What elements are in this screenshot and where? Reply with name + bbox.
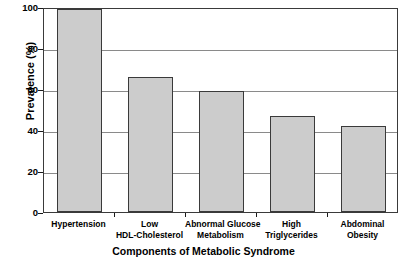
x-axis-category-label: AbdominalObesity <box>327 219 398 240</box>
y-axis-tick-mark <box>38 213 43 214</box>
y-axis-tick-label: 80 <box>12 44 38 54</box>
y-axis-tick-mark <box>38 131 43 132</box>
x-axis-category-label: Abnormal GlucoseMetabolism <box>185 219 256 240</box>
x-axis-category-label: LowHDL-Cholesterol <box>114 219 185 240</box>
y-axis-tick-mark <box>38 49 43 50</box>
x-axis-category-label-line: Hypertension <box>43 219 114 230</box>
x-axis-tick-mark <box>185 213 186 217</box>
bar <box>341 126 386 212</box>
bar <box>270 116 315 212</box>
x-axis-category-label-line: Obesity <box>327 230 398 241</box>
x-axis-category-label: Hypertension <box>43 219 114 230</box>
x-axis-category-label-line: Low <box>114 219 185 230</box>
y-axis-tick-label: 40 <box>12 126 38 136</box>
bar <box>199 91 244 212</box>
bar-series <box>44 9 397 212</box>
y-axis-tick-mark <box>38 8 43 9</box>
x-axis-category-label-line: Abnormal Glucose <box>185 219 256 230</box>
x-axis-category-label-line: Triglycerides <box>256 230 327 241</box>
x-axis-category-label-line: HDL-Cholesterol <box>114 230 185 241</box>
bar <box>57 9 102 212</box>
x-axis-title: Components of Metabolic Syndrome <box>0 245 407 257</box>
y-axis-tick-labels: 020406080100 <box>10 0 38 262</box>
y-axis-tick-label: 100 <box>12 3 38 13</box>
y-axis-tick-label: 60 <box>12 85 38 95</box>
x-axis-category-label-line: Abdominal <box>327 219 398 230</box>
x-axis-category-label-line: Metabolism <box>185 230 256 241</box>
plot-area <box>43 8 398 213</box>
bar-chart-figure: Prevalence (%) 020406080100 Hypertension… <box>0 0 407 262</box>
x-axis-tick-mark <box>114 213 115 217</box>
y-axis-tick-mark <box>38 90 43 91</box>
x-axis-tick-mark <box>327 213 328 217</box>
y-axis-tick-mark <box>38 172 43 173</box>
bar <box>128 77 173 212</box>
x-axis-category-label-line: High <box>256 219 327 230</box>
y-axis-tick-label: 20 <box>12 167 38 177</box>
x-axis-category-label: HighTriglycerides <box>256 219 327 240</box>
y-axis-tick-label: 0 <box>12 208 38 218</box>
x-axis-tick-mark <box>256 213 257 217</box>
